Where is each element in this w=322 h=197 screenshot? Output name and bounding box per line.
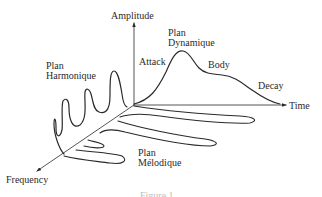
melodic-trajectory-1 — [120, 106, 255, 123]
decay-label: Decay — [258, 80, 284, 91]
melodic-trajectory-3 — [84, 140, 104, 148]
frequency-axis-label: Frequency — [6, 174, 48, 185]
harmonic-spectrum-curve — [54, 71, 127, 154]
figure-caption: Figure 1 — [140, 190, 190, 197]
melodic-trajectory-4 — [64, 150, 125, 163]
time-axis-label: Time — [289, 100, 310, 111]
plan-melodique-label-line2: Mélodique — [138, 157, 181, 168]
plan-dynamique-label-line2: Dynamique — [168, 37, 215, 48]
plan-harmonique-label-line2: Harmonique — [46, 70, 96, 81]
melodic-trajectory-2 — [100, 121, 216, 146]
amplitude-axis-label: Amplitude — [111, 10, 154, 21]
attack-label: Attack — [139, 56, 166, 67]
frequency-axis — [37, 105, 134, 171]
body-label: Body — [208, 59, 230, 70]
